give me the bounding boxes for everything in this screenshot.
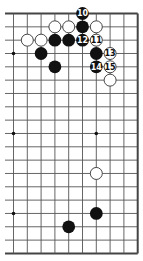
black-stone [90, 47, 103, 60]
black-stone [49, 34, 62, 47]
white-stone: 13 [104, 47, 116, 59]
go-board-diagram: 101211131415 [0, 0, 143, 261]
white-stone-icon [104, 74, 116, 86]
black-stone-icon [49, 34, 62, 47]
star-point-icon [12, 212, 16, 216]
black-stone [35, 47, 48, 60]
white-stone [90, 21, 102, 33]
move-number-label: 14 [91, 63, 103, 72]
white-stone [104, 74, 116, 86]
black-stone-icon [90, 207, 103, 220]
white-stone-icon [63, 21, 75, 33]
star-point-icon [95, 132, 99, 136]
black-stone-icon [90, 47, 103, 60]
white-stone-icon [35, 34, 47, 46]
black-stone-icon [76, 20, 89, 33]
black-stone [62, 220, 75, 233]
move-number-label: 10 [77, 9, 89, 18]
black-stone [62, 34, 75, 47]
star-point-icon [12, 132, 16, 136]
black-stone-icon [49, 60, 62, 73]
white-stone [49, 21, 61, 33]
black-stone: 14 [90, 60, 103, 73]
black-stone [90, 207, 103, 220]
move-number-label: 12 [77, 36, 88, 45]
white-stone-icon [49, 21, 61, 33]
black-stone-icon [62, 220, 75, 233]
black-stone [76, 20, 89, 33]
white-stone [35, 34, 47, 46]
black-stone-icon [35, 47, 48, 60]
white-stone-icon [90, 21, 102, 33]
black-stone: 12 [76, 34, 89, 47]
black-stone [49, 60, 62, 73]
white-stone [63, 21, 75, 33]
black-stone: 10 [76, 7, 89, 20]
white-stone: 15 [104, 61, 116, 73]
white-stone-icon [90, 167, 102, 179]
white-stone-icon [21, 34, 33, 46]
star-point-icon [12, 52, 16, 56]
move-number-label: 13 [105, 49, 116, 58]
board-grid [5, 14, 138, 254]
black-stone-icon [62, 34, 75, 47]
move-number-label: 15 [105, 63, 117, 72]
white-stone: 11 [90, 34, 102, 46]
move-number-label: 11 [91, 36, 103, 45]
white-stone [21, 34, 33, 46]
white-stone [90, 167, 102, 179]
